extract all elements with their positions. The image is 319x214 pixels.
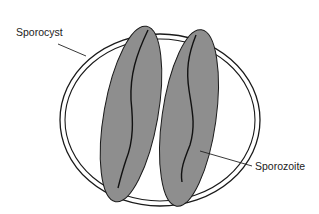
diagram-canvas: Sporocyst Sporozoite [0,0,319,214]
sporocyst-label: Sporocyst [16,27,63,38]
sporocyst-leader-line [58,44,86,56]
sporozoite-label: Sporozoite [255,161,305,172]
